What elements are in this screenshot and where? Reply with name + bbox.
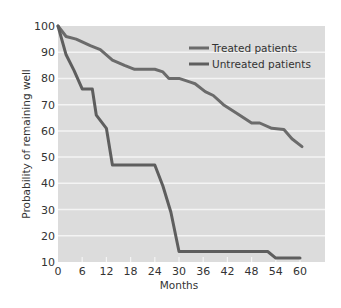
- y-axis-title: Probability of remaining well: [20, 69, 32, 219]
- x-tick-label: 18: [124, 265, 138, 278]
- y-tick-label: 60: [41, 125, 55, 138]
- y-tick-label: 100: [34, 20, 55, 33]
- y-axis: 102030405060708090100: [34, 20, 55, 269]
- x-tick-label: 6: [79, 265, 86, 278]
- survival-chart: 06121824303642485460 1020304050607080901…: [0, 0, 341, 308]
- y-tick-label: 50: [41, 151, 55, 164]
- y-tick-label: 20: [41, 230, 55, 243]
- x-tick-label: 24: [148, 265, 162, 278]
- y-tick-label: 10: [41, 256, 55, 269]
- x-axis-title: Months: [160, 279, 198, 291]
- x-tick-label: 60: [293, 265, 307, 278]
- y-tick-label: 90: [41, 46, 55, 59]
- legend-label: Treated patients: [211, 42, 297, 54]
- y-tick-label: 40: [41, 177, 55, 190]
- x-tick-label: 30: [172, 265, 186, 278]
- x-tick-label: 36: [196, 265, 210, 278]
- x-tick-label: 48: [245, 265, 259, 278]
- y-tick-label: 70: [41, 99, 55, 112]
- legend-label: Untreated patients: [212, 58, 311, 70]
- x-tick-label: 12: [99, 265, 113, 278]
- y-tick-label: 80: [41, 72, 55, 85]
- y-tick-label: 30: [41, 204, 55, 217]
- x-tick-label: 54: [269, 265, 283, 278]
- x-tick-label: 0: [55, 265, 62, 278]
- x-tick-label: 42: [220, 265, 234, 278]
